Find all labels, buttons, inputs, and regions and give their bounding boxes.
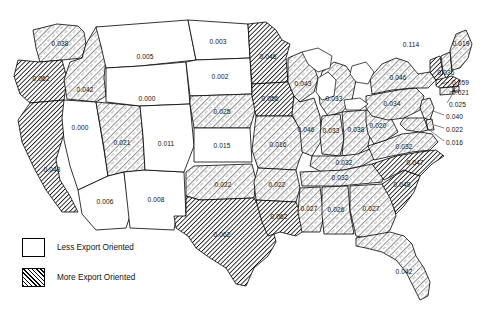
- value-label-or: 0.062: [32, 75, 49, 82]
- value-label-wi: 0.043: [294, 80, 311, 87]
- value-label-ks: 0.015: [213, 142, 230, 149]
- value-label-il: 0.046: [297, 126, 314, 133]
- value-label-nc: 0.047: [406, 159, 423, 166]
- value-label-ri: 0.021: [452, 89, 469, 96]
- state-in[interactable]: [320, 114, 344, 156]
- value-label-ne: 0.025: [213, 108, 230, 115]
- state-md[interactable]: [400, 118, 428, 132]
- value-label-vt: 0.114: [403, 41, 420, 48]
- legend-swatch-hatched: [22, 268, 45, 287]
- value-label-ma: 0.059: [452, 79, 469, 86]
- value-label-nh: 0.036: [437, 69, 454, 76]
- value-label-ky: 0.032: [335, 159, 352, 166]
- value-label-sd: 0.002: [211, 73, 228, 80]
- value-label-co: 0.011: [158, 140, 175, 147]
- value-label-mo: 0.016: [269, 141, 286, 148]
- value-label-wy: 0.000: [138, 95, 155, 102]
- value-label-mi: 0.033: [325, 95, 342, 102]
- value-label-ms: 0.027: [300, 205, 317, 212]
- value-label-fl: 0.042: [395, 268, 412, 275]
- value-label-ga: 0.027: [362, 205, 379, 212]
- value-label-nv: 0.000: [71, 124, 88, 131]
- value-label-tx: 0.062: [213, 231, 230, 238]
- state-nj[interactable]: [420, 98, 434, 120]
- state-mt[interactable]: [96, 20, 196, 68]
- value-label-in: 0.033: [322, 127, 339, 134]
- value-label-wv: 0.020: [369, 122, 386, 129]
- value-label-la: 0.062: [270, 213, 287, 220]
- value-label-ct: 0.025: [449, 101, 466, 108]
- value-label-pa: 0.034: [383, 100, 400, 107]
- value-label-ca: 0.048: [43, 166, 60, 173]
- value-label-ok: 0.022: [214, 181, 231, 188]
- state-me[interactable]: [450, 30, 472, 70]
- figure-canvas: 0.038 0.062 0.042 0.005 0.003 0.002 0.00…: [0, 0, 484, 315]
- value-label-nm: 0.008: [147, 196, 164, 203]
- value-label-me: 0.019: [452, 40, 469, 47]
- value-label-ut: 0.021: [113, 139, 130, 146]
- value-label-nj: 0.040: [446, 113, 463, 120]
- state-fl[interactable]: [356, 232, 430, 300]
- legend-label-more: More Export Oriented: [57, 273, 135, 282]
- value-label-az: 0.006: [96, 198, 113, 205]
- value-label-tn: 0.032: [331, 174, 348, 181]
- value-label-ar: 0.022: [268, 181, 285, 188]
- value-label-va: 0.032: [395, 143, 412, 150]
- value-label-sc: 0.049: [393, 181, 410, 188]
- legend-swatch-light: [22, 238, 45, 257]
- value-label-mn: 0.046: [259, 53, 276, 60]
- state-co[interactable]: [140, 104, 194, 172]
- legend: Less Export Oriented More Export Oriente…: [22, 238, 135, 298]
- value-label-ia: 0.056: [261, 95, 278, 102]
- legend-item-less: Less Export Oriented: [22, 238, 135, 257]
- value-label-id: 0.042: [76, 86, 93, 93]
- value-label-al: 0.026: [327, 206, 344, 213]
- legend-label-less: Less Export Oriented: [57, 243, 134, 252]
- value-label-ny: 0.046: [389, 74, 406, 81]
- value-label-de: 0.022: [446, 126, 463, 133]
- value-label-nd: 0.003: [209, 38, 226, 45]
- value-label-wa: 0.038: [51, 40, 68, 47]
- legend-item-more: More Export Oriented: [22, 268, 135, 287]
- value-label-mt: 0.005: [136, 53, 153, 60]
- value-label-oh: 0.038: [347, 126, 364, 133]
- value-label-md: 0.016: [446, 139, 463, 146]
